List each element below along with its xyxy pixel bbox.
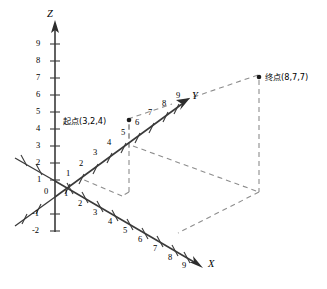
x-tick-label-5: 5 [123,225,127,235]
x-axis-negative [15,158,55,181]
x-axis-line [55,181,194,262]
y-axis-name: Y [192,90,198,101]
origin-label: 0 [44,186,48,196]
x-tick-label-4: 4 [108,216,112,226]
x-tick-label-8: 8 [168,252,172,262]
figure-canvas: 9 8 7 6 5 4 3 2 1 0 -1 -2 1 2 3 4 5 6 7 … [0,0,327,289]
z-tick-label-4: 4 [36,123,40,133]
x-axis-arrow [189,256,203,268]
start-point-marker [127,118,132,123]
y-tick-label-6: 6 [135,117,139,127]
x-tick-label-9: 9 [182,260,186,270]
y-tick-label-3: 3 [93,147,97,157]
z-tick-label-neg2: -2 [32,225,39,235]
y-tick-label-1: 1 [66,168,70,178]
z-tick-label-neg1: -1 [32,208,39,218]
y-tick-neg2 [22,214,27,224]
z-tick-label-3: 3 [36,140,40,150]
x-tick-label-6: 6 [138,234,142,244]
x-tick-neg2 [21,155,27,166]
z-tick-label-9: 9 [36,38,40,48]
z-tick-label-6: 6 [36,89,40,99]
y-tick-label-9: 9 [176,90,180,100]
z-tick-label-1: 1 [37,174,41,184]
y-tick-label-8: 8 [162,98,166,108]
y-tick-label-5: 5 [121,127,125,137]
y-tick-label-4: 4 [107,137,111,147]
construction-dashes [82,75,259,233]
base-dash-lower-left [178,192,259,233]
end-point-marker [257,75,262,80]
x-tick-label-7: 7 [153,243,157,253]
z-axis-name: Z [47,8,53,19]
x-axis [15,155,203,268]
z-tick-label-8: 8 [36,55,40,65]
start-base-dash-b [82,179,122,196]
x-tick-5 [127,219,133,230]
end-point-label: 终点(8,7,7) [265,70,308,82]
start-point-label: 起点(3,2,4) [63,114,106,126]
coordinate-diagram [0,0,327,289]
z-tick-label-7: 7 [36,72,40,82]
start-base-dash-a [122,192,129,196]
y-tick-label-2: 2 [79,158,83,168]
z-tick-label-5: 5 [36,106,40,116]
x-tick-label-1: 1 [64,188,68,198]
x-tick-6 [142,228,148,239]
base-dash-upper-right [133,146,259,192]
x-axis-name: X [208,258,214,269]
x-tick-label-2: 2 [78,198,82,208]
z-tick-label-2: 2 [36,157,40,167]
y-tick-label-7: 7 [148,107,152,117]
x-tick-label-3: 3 [93,207,97,217]
